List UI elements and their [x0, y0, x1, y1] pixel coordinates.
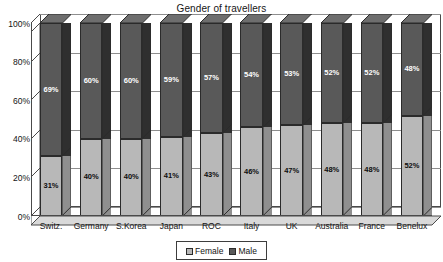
legend-label-female: Female — [195, 246, 223, 256]
legend-label-male: Male — [238, 246, 256, 256]
y-axis-tick-label: 40% — [0, 134, 30, 144]
chart-legend: Female Male — [0, 240, 443, 260]
x-axis-tick-label: S.Korea — [111, 221, 151, 231]
x-axis-tick-label: Benelux — [392, 221, 432, 231]
legend-item-female[interactable]: Female — [186, 246, 223, 257]
legend-item-male[interactable]: Male — [229, 246, 256, 257]
x-axis-tick-label: UK — [272, 221, 312, 231]
legend-swatch-female-icon — [186, 248, 193, 255]
legend-swatch-male-icon — [229, 248, 236, 255]
y-axis-tick-label: 100% — [0, 19, 30, 29]
chart-title: Gender of travellers — [0, 3, 443, 14]
legend-box: Female Male — [176, 241, 267, 260]
y-axis: 0%20%40%60%80%100% — [0, 0, 30, 262]
x-axis-tick-label: Switz. — [31, 221, 71, 231]
x-axis-tick-label: Italy — [232, 221, 272, 231]
y-axis-tick-label: 80% — [0, 57, 30, 67]
y-axis-tick-label: 20% — [0, 173, 30, 183]
plot-area: 31%69%40%60%40%60%41%59%43%57%46%54%47%5… — [31, 23, 432, 216]
x-axis-tick-label: France — [352, 221, 392, 231]
x-axis-tick-label: Japan — [151, 221, 191, 231]
chart-container: Gender of travellers 0%20%40%60%80%100% … — [0, 0, 443, 262]
x-axis-tick-label: Germany — [71, 221, 111, 231]
y-axis-tick-label: 0% — [0, 212, 30, 222]
x-axis-tick-label: ROC — [191, 221, 231, 231]
plot-axes-frame — [31, 23, 432, 216]
x-axis-tick-label: Australia — [312, 221, 352, 231]
y-axis-tick-label: 60% — [0, 96, 30, 106]
